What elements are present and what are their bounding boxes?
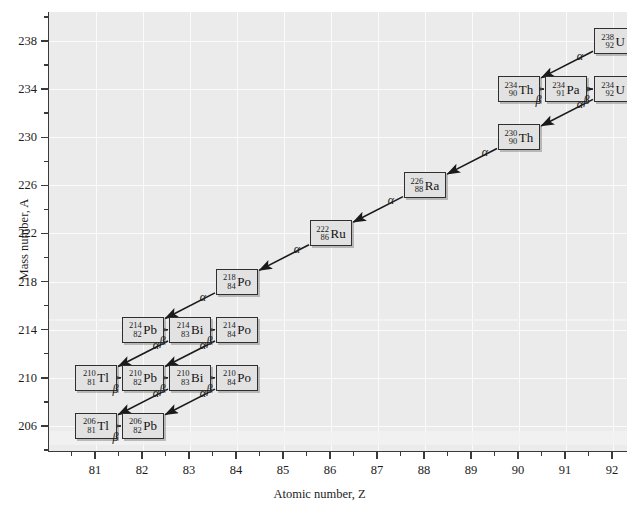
nuclide-box-u238[interactable]: 23892U [594, 28, 627, 54]
y-tick-major [41, 137, 48, 138]
decay-label-beta: β [584, 93, 590, 108]
element-symbol: Ra [425, 179, 440, 192]
decay-arrow-alpha [541, 51, 593, 78]
x-tick-minor [165, 452, 166, 456]
y-tick-label: 210 [5, 370, 37, 385]
y-tick-major [41, 88, 48, 89]
atomic-number: 90 [509, 89, 518, 98]
decay-chain-figure: 23892U23490Th23491Pa23492U23090Th22688Ra… [0, 0, 639, 515]
x-tick-label: 84 [230, 463, 243, 478]
decay-label-alpha: α [200, 337, 206, 352]
x-tick-minor [494, 452, 495, 456]
nuclide-box-po214[interactable]: 21484Po [216, 317, 258, 343]
y-axis-title: Mass number, A [17, 170, 32, 310]
x-tick-major [470, 452, 471, 459]
y-tick-minor [44, 16, 48, 17]
x-tick-minor [71, 452, 72, 456]
element-symbol: Po [237, 371, 251, 384]
x-tick-minor [306, 452, 307, 456]
y-tick-major [41, 281, 48, 282]
nuclide-box-th230[interactable]: 23090Th [498, 124, 540, 150]
element-symbol: Tl [97, 419, 109, 432]
y-tick-minor [44, 64, 48, 65]
y-tick-minor [44, 401, 48, 402]
decay-arrow-alpha [165, 293, 215, 319]
y-tick-minor [44, 112, 48, 113]
atomic-number: 83 [181, 330, 190, 339]
nuclide-box-ra226[interactable]: 22688Ra [404, 172, 446, 198]
x-tick-label: 86 [324, 463, 337, 478]
x-tick-major [423, 452, 424, 459]
x-tick-major [611, 452, 612, 459]
y-tick-label: 238 [5, 34, 37, 49]
x-tick-minor [541, 452, 542, 456]
nuclide-box-pb206[interactable]: 20682Pb [122, 413, 164, 439]
y-tick-major [41, 40, 48, 41]
decay-label-alpha: α [577, 48, 583, 63]
element-symbol: Ru [330, 227, 345, 240]
element-symbol: Tl [97, 371, 109, 384]
x-tick-label: 85 [277, 463, 290, 478]
y-tick-major [41, 377, 48, 378]
nuclide-box-th234[interactable]: 23490Th [498, 76, 540, 102]
atomic-number: 81 [87, 378, 96, 387]
x-tick-minor [588, 452, 589, 456]
decay-label-alpha: α [200, 385, 206, 400]
y-tick-minor [44, 305, 48, 306]
y-tick-label: 234 [5, 82, 37, 97]
x-tick-minor [212, 452, 213, 456]
element-symbol: Th [519, 83, 534, 96]
nuclide-box-tl206[interactable]: 20681Tl [75, 413, 117, 439]
decay-arrow-alpha [259, 245, 309, 271]
x-tick-label: 88 [418, 463, 431, 478]
decay-label-beta: β [160, 333, 166, 348]
element-symbol: Bi [191, 323, 203, 336]
x-tick-minor [447, 452, 448, 456]
x-tick-major [141, 452, 142, 459]
nuclide-box-tl210[interactable]: 21081Tl [75, 365, 117, 391]
x-tick-label: 87 [371, 463, 384, 478]
atomic-number: 90 [509, 137, 518, 146]
decay-label-alpha: α [153, 385, 159, 400]
decay-label-alpha: α [153, 337, 159, 352]
element-symbol: Pb [143, 323, 157, 336]
x-tick-label: 92 [606, 463, 619, 478]
decay-label-alpha: α [200, 289, 206, 304]
decay-label-beta: β [160, 381, 166, 396]
decay-label-beta: β [536, 93, 542, 108]
decay-label-alpha: α [482, 145, 488, 160]
y-tick-label: 206 [5, 418, 37, 433]
nuclide-box-u234[interactable]: 23492U [594, 76, 627, 102]
y-tick-label: 230 [5, 130, 37, 145]
atomic-number: 92 [605, 41, 614, 50]
atomic-number: 91 [557, 89, 566, 98]
x-tick-major [235, 452, 236, 459]
x-tick-label: 83 [183, 463, 196, 478]
x-axis-title: Atomic number, Z [0, 487, 639, 502]
atomic-number: 83 [181, 378, 190, 387]
x-tick-major [282, 452, 283, 459]
atomic-number: 84 [227, 378, 236, 387]
y-tick-major [41, 425, 48, 426]
x-tick-major [188, 452, 189, 459]
x-tick-label: 89 [465, 463, 478, 478]
nuclide-box-rn222[interactable]: 22286Ru [310, 220, 352, 246]
decay-arrow-alpha [447, 149, 497, 175]
y-tick-minor [44, 209, 48, 210]
nuclide-box-po210[interactable]: 21084Po [216, 365, 258, 391]
x-tick-label: 91 [559, 463, 572, 478]
decay-label-beta: β [113, 381, 119, 396]
nuclide-box-po218[interactable]: 21884Po [216, 269, 258, 295]
decay-label-beta: β [113, 429, 119, 444]
x-tick-label: 81 [89, 463, 102, 478]
y-tick-major [41, 233, 48, 234]
element-symbol: Pb [143, 371, 157, 384]
decay-label-alpha: α [294, 241, 300, 256]
x-tick-major [564, 452, 565, 459]
atomic-number: 82 [133, 378, 142, 387]
element-symbol: Th [519, 131, 534, 144]
y-tick-major [41, 329, 48, 330]
decay-label-beta: β [207, 381, 213, 396]
x-tick-major [517, 452, 518, 459]
element-symbol: Po [237, 275, 251, 288]
